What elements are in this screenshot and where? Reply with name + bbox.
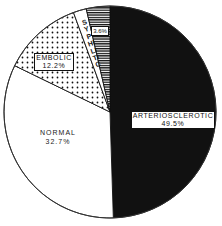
arteriosclerotic-label: ARTERIOSCLEROTIC 49.5%	[131, 111, 215, 129]
syphilitic-value: 3.6%	[91, 26, 109, 36]
embolic-value: 12.2%	[35, 62, 73, 70]
arteriosclerotic-name: ARTERIOSCLEROTIC	[132, 112, 214, 120]
embolic-label: EMBOLIC 12.2%	[34, 53, 74, 71]
arteriosclerotic-value: 49.5%	[132, 120, 214, 128]
normal-name: NORMAL	[36, 128, 80, 137]
normal-label: NORMAL 32.7%	[36, 128, 80, 146]
normal-value: 32.7%	[36, 137, 80, 146]
embolic-name: EMBOLIC	[35, 54, 73, 62]
